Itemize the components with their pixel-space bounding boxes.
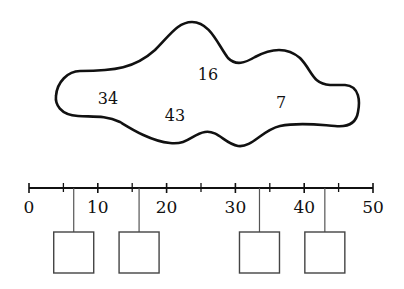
tick-label: 50 (362, 197, 384, 217)
cloud-number: 43 (165, 106, 185, 125)
tick-label: 20 (156, 197, 178, 217)
answer-box[interactable] (119, 232, 159, 273)
cloud-number: 7 (276, 93, 286, 112)
answer-box[interactable] (239, 232, 279, 273)
tick-label: 40 (293, 197, 315, 217)
answer-box[interactable] (54, 232, 94, 273)
cloud-numbers: 3416437 (98, 65, 286, 125)
number-line: 01020304050 (24, 183, 384, 217)
tick-label: 10 (87, 197, 109, 217)
cloud-number: 34 (98, 89, 118, 108)
answer-box[interactable] (305, 232, 345, 273)
diagram-canvas: 3416437 01020304050 (0, 0, 404, 289)
cloud-shape (56, 22, 359, 146)
tick-label: 0 (24, 197, 35, 217)
cloud-number: 16 (198, 65, 218, 84)
tick-label: 30 (225, 197, 247, 217)
